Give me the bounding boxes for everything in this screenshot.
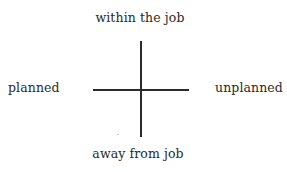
axis-label-left: planned <box>8 81 60 95</box>
scan-artifact <box>117 134 119 135</box>
axis-label-top: within the job <box>0 11 280 25</box>
horizontal-axis-line <box>93 89 189 91</box>
axis-label-bottom: away from job <box>0 147 276 161</box>
axis-label-right: unplanned <box>215 81 283 95</box>
